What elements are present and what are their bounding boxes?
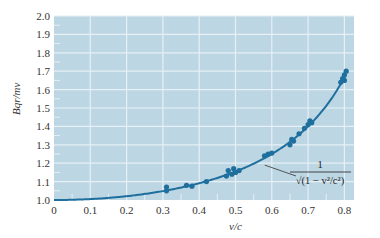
x-tick-label: 0.6	[265, 204, 279, 216]
data-point	[309, 120, 314, 125]
data-point	[269, 150, 274, 155]
y-tick-label: 1.4	[36, 120, 50, 132]
y-tick-label: 2.0	[36, 10, 50, 22]
y-axis-ticks: 1.01.11.21.31.41.51.61.71.81.92.0	[36, 10, 50, 206]
y-tick-label: 1.9	[36, 28, 50, 40]
formula-denominator: √(1 − v²/c²)	[296, 175, 345, 187]
y-tick-label: 1.1	[36, 176, 50, 188]
data-point	[184, 183, 189, 188]
x-tick-label: 0.3	[156, 204, 170, 216]
x-axis-label: v/c	[229, 220, 242, 232]
x-axis-ticks: 00.10.20.30.40.50.60.70.8	[51, 204, 352, 216]
data-point	[237, 168, 242, 173]
y-tick-label: 1.8	[36, 47, 50, 59]
x-tick-label: 0	[51, 204, 57, 216]
x-tick-label: 0.4	[192, 204, 206, 216]
formula-numerator: 1	[317, 159, 322, 170]
data-point	[296, 131, 301, 136]
x-tick-label: 0.8	[338, 204, 352, 216]
x-tick-label: 0.1	[83, 204, 97, 216]
data-point	[189, 184, 194, 189]
y-tick-label: 1.2	[36, 157, 50, 169]
y-tick-label: 1.5	[36, 102, 50, 114]
data-point	[204, 179, 209, 184]
data-point	[291, 139, 296, 144]
data-point	[164, 185, 169, 190]
y-tick-label: 1.6	[36, 84, 50, 96]
x-tick-label: 0.7	[301, 204, 315, 216]
y-tick-label: 1.0	[36, 194, 50, 206]
x-tick-label: 0.5	[229, 204, 243, 216]
chart: 1.01.11.21.31.41.51.61.71.81.92.0 00.10.…	[0, 0, 380, 238]
data-point	[224, 173, 229, 178]
data-point	[342, 78, 347, 83]
y-tick-label: 1.3	[36, 139, 50, 151]
y-tick-label: 1.7	[36, 65, 50, 77]
x-tick-label: 0.2	[120, 204, 134, 216]
data-point	[344, 69, 349, 74]
y-axis-label: Bqr/mv	[10, 82, 22, 115]
